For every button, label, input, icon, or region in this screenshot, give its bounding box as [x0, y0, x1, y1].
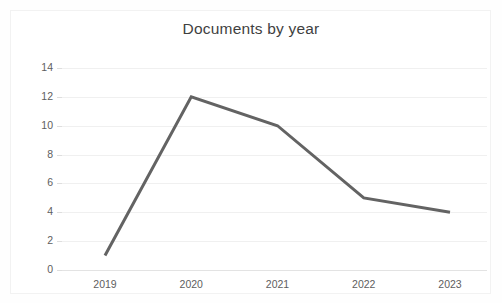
- y-axis-tick-label: 8: [19, 148, 53, 160]
- y-axis-tick-label: 6: [19, 176, 53, 188]
- x-axis-tick-label: 2023: [420, 278, 480, 290]
- chart-container: Documents by year 02468101214 2019202020…: [0, 0, 502, 303]
- data-series: [105, 97, 450, 256]
- x-axis-tick-label: 2022: [334, 278, 394, 290]
- series-line-Documents: [105, 97, 450, 256]
- x-axis-tick-label: 2019: [75, 278, 135, 290]
- y-axis-tick-label: 2: [19, 234, 53, 246]
- gridlines: [62, 69, 487, 271]
- x-axis-tick-label: 2020: [161, 278, 221, 290]
- y-axis-tick-label: 14: [19, 61, 53, 73]
- x-axis-tick-label: 2021: [248, 278, 308, 290]
- y-axis-tick-label: 4: [19, 205, 53, 217]
- y-axis-tick-label: 12: [19, 90, 53, 102]
- axis-tickmarks: [57, 69, 62, 271]
- y-axis-tick-label: 0: [19, 263, 53, 275]
- y-axis-tick-label: 10: [19, 119, 53, 131]
- plot-area: [0, 0, 502, 303]
